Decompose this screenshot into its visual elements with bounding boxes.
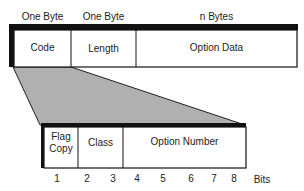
bit-8: 8: [229, 173, 239, 185]
field-flag-line1: Flag: [44, 131, 78, 143]
field-code: Code: [14, 42, 71, 54]
bit-4: 4: [132, 173, 142, 185]
bit-7: 7: [209, 173, 219, 185]
diagram-shapes: [0, 0, 304, 191]
field-class: Class: [78, 137, 123, 149]
bits-label: Bits: [250, 174, 274, 186]
bit-2: 2: [82, 173, 92, 185]
field-flag-line2: Copy: [44, 143, 78, 155]
top-box-shadow: [9, 24, 298, 30]
bit-3: 3: [108, 173, 118, 185]
header-length-size: One Byte: [71, 11, 136, 23]
expansion-fill: [13, 67, 245, 125]
field-length: Length: [71, 43, 136, 55]
field-option-number: Option Number: [123, 136, 246, 148]
header-data-size: n Bytes: [136, 11, 297, 23]
bit-6: 6: [186, 173, 196, 185]
bit-5: 5: [158, 173, 168, 185]
header-code-size: One Byte: [14, 11, 71, 23]
bit-1: 1: [52, 173, 62, 185]
field-option-data: Option Data: [136, 42, 297, 54]
